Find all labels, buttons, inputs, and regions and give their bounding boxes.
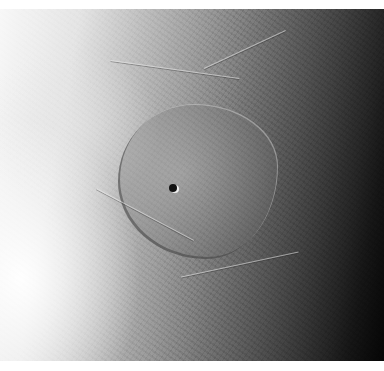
planetary-surface-photo	[0, 9, 384, 361]
small-crater	[169, 184, 177, 192]
